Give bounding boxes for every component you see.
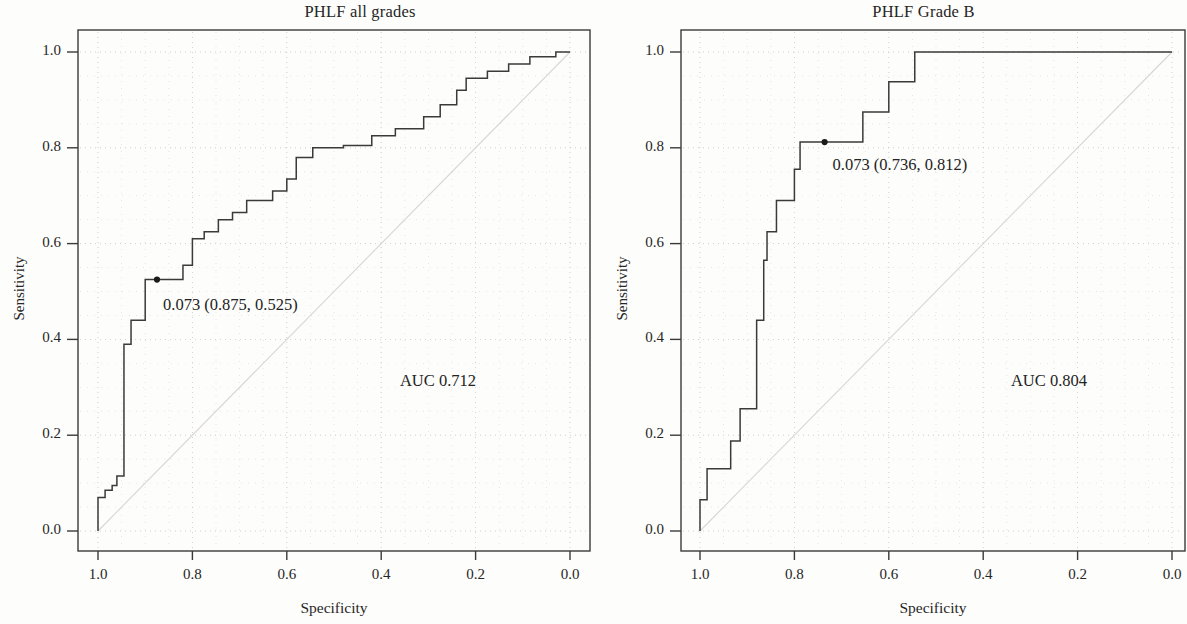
auc-label: AUC 0.712 xyxy=(400,371,476,390)
x-tick-label: 0.6 xyxy=(859,566,919,583)
y-tick-label: 0.4 xyxy=(622,329,664,346)
operating-point-label: 0.073 (0.736, 0.812) xyxy=(833,155,968,174)
roc-plot-area: 0.073 (0.875, 0.525)AUC 0.712 xyxy=(0,0,600,624)
operating-point-marker xyxy=(822,139,828,145)
x-tick-label: 0.0 xyxy=(540,566,600,583)
y-tick-label: 0.2 xyxy=(19,425,61,442)
x-tick-label: 0.8 xyxy=(162,566,222,583)
y-tick-label: 0.0 xyxy=(622,521,664,538)
x-tick-label: 1.0 xyxy=(68,566,128,583)
x-tick-label: 0.0 xyxy=(1142,566,1187,583)
y-tick-label: 0.2 xyxy=(622,425,664,442)
y-tick-label: 1.0 xyxy=(19,42,61,59)
y-tick-label: 0.6 xyxy=(19,234,61,251)
y-tick-label: 0.8 xyxy=(19,138,61,155)
operating-point-label: 0.073 (0.875, 0.525) xyxy=(163,295,298,314)
panel-phlf-grade-b: PHLF Grade B Sensitivity Specificity 0.0… xyxy=(600,0,1187,624)
x-tick-label: 0.4 xyxy=(953,566,1013,583)
x-tick-label: 0.6 xyxy=(257,566,317,583)
x-tick-label: 0.2 xyxy=(446,566,506,583)
y-tick-label: 0.8 xyxy=(622,138,664,155)
x-tick-label: 0.2 xyxy=(1048,566,1108,583)
y-tick-label: 0.6 xyxy=(622,234,664,251)
roc-figure: PHLF all grades Sensitivity Specificity … xyxy=(0,0,1187,624)
x-tick-label: 0.8 xyxy=(764,566,824,583)
operating-point-marker xyxy=(154,276,160,282)
x-tick-label: 0.4 xyxy=(351,566,411,583)
y-tick-label: 1.0 xyxy=(622,42,664,59)
panel-phlf-all-grades: PHLF all grades Sensitivity Specificity … xyxy=(0,0,600,624)
auc-label: AUC 0.804 xyxy=(1011,371,1087,390)
y-tick-label: 0.4 xyxy=(19,329,61,346)
y-tick-label: 0.0 xyxy=(19,521,61,538)
roc-plot-area: 0.073 (0.736, 0.812)AUC 0.804 xyxy=(600,0,1187,624)
x-tick-label: 1.0 xyxy=(670,566,730,583)
